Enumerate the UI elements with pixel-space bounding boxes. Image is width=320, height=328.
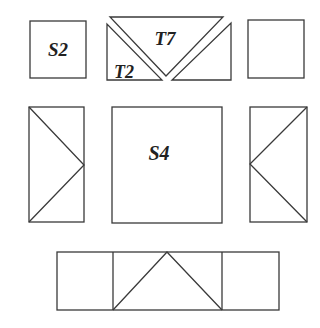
rect-left-arrow	[29, 107, 84, 222]
label-s4: S4	[148, 142, 169, 164]
triangle-right-small	[172, 23, 231, 80]
label-s2: S2	[48, 39, 69, 60]
tangram-diagram: S2 T2 T7 S4	[0, 0, 320, 328]
square-s4: S4	[112, 107, 222, 223]
label-t2: T2	[114, 62, 134, 82]
bottom-strip	[57, 252, 279, 310]
square-top-right	[248, 20, 304, 78]
label-t7: T7	[154, 28, 177, 49]
diagram-canvas: S2 T2 T7 S4	[0, 0, 320, 328]
square-s2: S2	[30, 21, 86, 78]
rect-right-arrow	[250, 107, 307, 222]
